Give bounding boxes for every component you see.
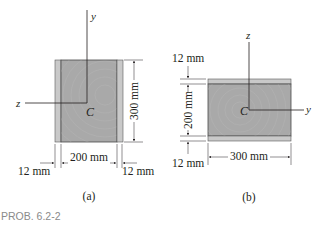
dim-left-plank-label: 12 mm: [18, 165, 50, 177]
y-axis-label: y: [90, 10, 96, 22]
dim-width-label: 300 mm: [230, 150, 268, 162]
dim-height-label: 300 mm: [128, 82, 140, 120]
y-axis-label: y: [305, 103, 311, 115]
dim-right-plank-label: 12 mm: [122, 165, 154, 177]
dim-top-plank-label: 12 mm: [172, 52, 204, 64]
centroid-label: C: [240, 104, 249, 118]
bottom-plank: [208, 136, 291, 141]
caption-a: (a): [83, 190, 96, 203]
dim-width-label: 200 mm: [70, 151, 108, 163]
problem-label: PROB. 6.2-2: [1, 210, 61, 222]
centroid-label: C: [86, 105, 95, 119]
wood-beam: [61, 60, 117, 142]
figure-canvas: y z C 300 mm 200 mm 12 mm 12 mm (a): [0, 0, 324, 226]
caption-b: (b): [242, 191, 256, 204]
figure-a: y z C 300 mm 200 mm 12 mm 12 mm (a): [15, 10, 163, 203]
dim-bottom-plank-label: 12 mm: [172, 157, 204, 169]
dim-height-label: 200 mm: [182, 91, 194, 129]
top-plank: [208, 79, 291, 84]
z-axis-label: z: [15, 97, 21, 109]
z-axis-label: z: [245, 29, 251, 41]
figure-b: z y C 12 mm 200 mm 12 mm 300 mm (b): [172, 29, 311, 204]
left-plank: [55, 60, 61, 142]
right-plank: [117, 60, 123, 142]
